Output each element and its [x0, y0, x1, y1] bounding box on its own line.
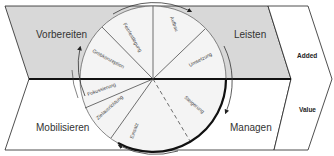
value-added-cycle-diagram: Vorbereiten Leisten Mobilisieren Managen…	[0, 0, 334, 156]
label-value: Value	[299, 106, 316, 113]
phase-leisten: Leisten	[234, 29, 266, 40]
phase-vorbereiten: Vorbereiten	[36, 29, 87, 40]
label-added: Added	[297, 52, 317, 59]
phase-managen: Managen	[230, 122, 272, 133]
phase-mobilisieren: Mobilisieren	[36, 122, 89, 133]
